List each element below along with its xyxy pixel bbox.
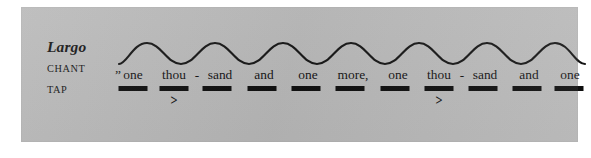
tap-dash — [555, 86, 584, 91]
chant-syllable-row: ”onethou-sandandonemore,onethou-sandando… — [117, 66, 587, 86]
contour-path — [119, 43, 585, 64]
label-column: Largo CHANT TAP — [47, 39, 121, 95]
tap-dash — [469, 86, 498, 91]
tap-dash — [248, 86, 277, 91]
tap-dash — [203, 86, 232, 91]
pitch-contour-wave — [117, 37, 587, 69]
accent-mark: > — [435, 93, 442, 107]
chant-open-quote: ” — [115, 66, 121, 84]
tap-dash — [381, 86, 410, 91]
tap-dash — [336, 86, 365, 91]
chant-syllable: one — [123, 66, 142, 84]
tap-dash — [513, 86, 542, 91]
figure-panel: Largo CHANT TAP ”onethou-sandandonemore,… — [21, 7, 578, 142]
tap-row-label: TAP — [47, 85, 121, 95]
tap-dash — [292, 86, 321, 91]
notation-area: ”onethou-sandandonemore,onethou-sandando… — [117, 37, 587, 117]
tempo-label: Largo — [47, 39, 121, 55]
syllable-hyphen: - — [195, 66, 199, 84]
chant-syllable: one — [298, 66, 317, 84]
chant-syllable: and — [519, 66, 538, 84]
chant-syllable: one — [388, 66, 407, 84]
chant-syllable: one — [560, 66, 579, 84]
chant-syllable: sand — [473, 66, 498, 84]
tap-dash-row: >> — [117, 86, 587, 114]
tap-dash — [160, 86, 189, 91]
chant-syllable: sand — [208, 66, 233, 84]
chant-row-label: CHANT — [47, 64, 121, 74]
accent-mark: > — [170, 93, 177, 107]
chant-syllable: and — [254, 66, 273, 84]
chant-syllable: thou — [162, 66, 186, 84]
chant-syllable: thou — [427, 66, 451, 84]
tap-dash — [425, 86, 454, 91]
tap-dash — [119, 86, 148, 91]
syllable-hyphen: - — [460, 66, 464, 84]
chant-syllable: more, — [338, 66, 369, 84]
